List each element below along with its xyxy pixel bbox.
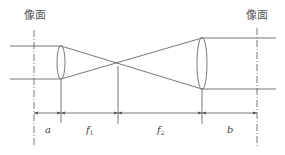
dim-f2-label: f2 <box>156 124 165 136</box>
ray-cross-1 <box>61 46 202 89</box>
dim-f1-sub: 1 <box>90 129 94 136</box>
ray-cross-2 <box>61 38 202 79</box>
right-lens <box>197 38 207 90</box>
dim-b-label: b <box>227 124 233 135</box>
left-lens <box>57 46 65 80</box>
right-image-plane-label: 像面 <box>246 9 268 22</box>
relay-lens-diagram: 像面 像面 a f1 f2 b <box>0 0 285 155</box>
left-image-plane-label: 像面 <box>24 9 46 22</box>
dim-f1-label: f1 <box>85 124 94 136</box>
dim-f2-sub: 2 <box>161 129 165 136</box>
dim-a-label: a <box>45 124 51 135</box>
